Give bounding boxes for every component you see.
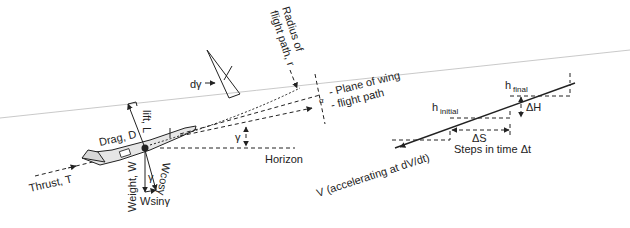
weight-gamma-label: γ [148,171,154,183]
d-gamma-triangle [207,50,240,98]
alpha-label: α [319,96,324,105]
horizon-label: Horizon [265,153,303,165]
wsin-vector [145,190,156,192]
velocity-label: V (accelerating at dV/dt) [315,151,431,199]
h-initial-subscript: initial [440,107,458,116]
flight-mechanics-diagram: Thrust, T lift, L Drag, D Weight, W Wcos… [0,0,630,228]
h-final-label: h [505,79,511,91]
h-initial-label: h [432,101,438,113]
steps-label: Steps in time Δt [454,143,531,155]
wsin-label: Wsinγ [140,195,170,207]
d-gamma-label: dγ [190,78,202,90]
weight-label: Weight, W [126,161,138,212]
radius-pointer [290,70,297,88]
wcos-vector [145,150,156,190]
plane-of-wing-line [180,95,320,134]
thrust-label: Thrust, T [28,172,74,194]
thrust-arrow [68,166,76,168]
gamma-label: γ [235,131,241,143]
lift-label: lift, L [141,110,153,133]
h-final-subscript: final [513,85,528,94]
wcos-label: Wcosγ [155,162,173,197]
delta-h-label: ΔH [526,101,541,113]
